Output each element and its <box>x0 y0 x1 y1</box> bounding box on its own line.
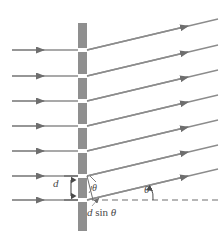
outgoing-ray <box>87 19 218 50</box>
path-difference-sin: sin <box>95 206 108 218</box>
theta-axis-arc <box>151 188 153 200</box>
outgoing-rays <box>87 19 218 200</box>
outgoing-ray <box>87 120 218 151</box>
theta-slit-label: θ <box>92 183 97 193</box>
barrier-segment <box>78 202 87 231</box>
theta-axis-label: θ <box>144 184 149 195</box>
outgoing-ray <box>87 145 218 176</box>
slit-spacing-label: d <box>53 178 59 189</box>
barrier-segment <box>78 178 87 198</box>
outgoing-ray <box>87 45 218 76</box>
barrier-segment <box>78 23 87 48</box>
barrier-segment <box>78 103 87 124</box>
path-difference-theta: θ <box>111 206 116 218</box>
diffraction-grating-figure: d θ θ d sin θ <box>0 0 222 234</box>
outgoing-ray <box>87 169 218 200</box>
slit-spacing-arrow <box>64 176 78 200</box>
barrier-segment <box>78 153 87 174</box>
barrier-segment <box>78 52 87 74</box>
barrier-segment <box>78 128 87 149</box>
outgoing-ray <box>87 70 218 101</box>
grating-barrier <box>78 23 87 231</box>
figure-canvas <box>0 0 222 234</box>
path-difference-label: d sin θ <box>87 207 116 218</box>
outgoing-ray <box>87 95 218 126</box>
barrier-segment <box>78 78 87 99</box>
incoming-rays <box>12 50 78 200</box>
